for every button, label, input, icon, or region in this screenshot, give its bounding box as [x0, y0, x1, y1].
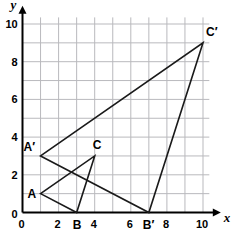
vertex-label-b-prime: B′	[143, 219, 155, 231]
y-tick-label-8: 8	[12, 57, 18, 68]
y-tick-label-0: 0	[12, 209, 18, 220]
coordinate-plane-figure: 0 2 4 6 8 10 0 2 4 6 8 10 x y A B C A′ B…	[0, 0, 234, 239]
y-tick-label-4: 4	[12, 132, 18, 143]
y-tick-label-6: 6	[12, 94, 18, 105]
vertex-label-b: B	[73, 219, 82, 231]
vertex-label-a: A	[28, 188, 37, 200]
x-tick-label-10: 10	[196, 219, 208, 230]
triangle-a-prime-b-prime-c-prime	[41, 43, 203, 213]
x-tick-label-8: 8	[163, 219, 169, 230]
x-axis-arrowhead	[213, 209, 221, 217]
vertex-label-c: C	[93, 139, 102, 151]
y-tick-label-10: 10	[6, 19, 18, 30]
y-axis-label: y	[11, 0, 17, 11]
x-tick-label-6: 6	[127, 219, 133, 230]
x-tick-label-0: 0	[19, 219, 25, 230]
triangle-abc	[41, 156, 95, 213]
x-tick-label-2: 2	[55, 219, 61, 230]
x-axis-label: x	[224, 211, 231, 224]
vertex-label-a-prime: A′	[24, 141, 36, 153]
axis-lines	[19, 6, 221, 217]
vertex-label-c-prime: C′	[206, 26, 218, 38]
triangles	[41, 43, 203, 213]
x-tick-label-4: 4	[91, 219, 97, 230]
y-tick-label-2: 2	[12, 170, 18, 181]
grid-lines	[23, 17, 210, 212]
y-axis-arrowhead	[19, 6, 27, 14]
plot-canvas	[0, 0, 234, 239]
